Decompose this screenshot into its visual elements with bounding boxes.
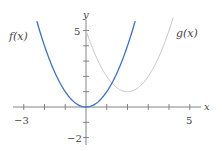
x-tick-label-neg3: −3 [14,115,29,126]
g-curve [86,18,173,92]
f-label: f(x) [8,30,28,43]
y-tick-label-neg2: −2 [67,133,82,144]
y-axis-label: y [82,9,89,20]
axes [13,20,201,145]
x-axis-label: x [204,101,210,112]
y-tick-label-5: 5 [74,26,80,37]
function-plot: f(x) g(x) y x −3 5 5 −2 [0,0,222,151]
x-tick-label-5: 5 [186,115,192,126]
g-label: g(x) [176,27,198,40]
